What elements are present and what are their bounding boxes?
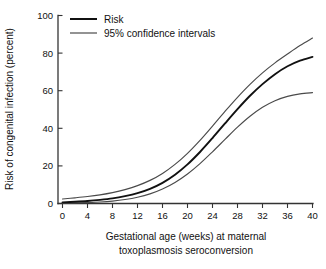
chart-background <box>0 0 326 269</box>
x-tick-label-20: 20 <box>182 210 193 221</box>
x-tick-label-0: 0 <box>60 210 65 221</box>
x-tick-label-4: 4 <box>85 210 90 221</box>
x-tick-label-12: 12 <box>132 210 143 221</box>
y-tick-label-80: 80 <box>42 48 53 59</box>
x-tick-label-24: 24 <box>207 210 218 221</box>
legend-label-risk: Risk <box>104 14 124 25</box>
y-tick-label-100: 100 <box>37 10 53 21</box>
x-tick-label-40: 40 <box>307 210 318 221</box>
y-tick-label-0: 0 <box>48 198 53 209</box>
chart-figure: Risk of congenital infection (percent) 1… <box>0 0 326 269</box>
x-axis-title-line-1: Gestational age (weeks) at maternal <box>106 231 267 242</box>
y-tick-label-60: 60 <box>42 85 53 96</box>
x-tick-label-16: 16 <box>157 210 168 221</box>
x-tick-label-28: 28 <box>232 210 243 221</box>
x-tick-label-32: 32 <box>257 210 268 221</box>
y-tick-label-40: 40 <box>42 123 53 134</box>
x-axis-title-line-2: toxoplasmosis seroconversion <box>119 245 253 256</box>
y-axis-title: Risk of congenital infection (percent) <box>4 28 15 190</box>
y-tick-label-20: 20 <box>42 160 53 171</box>
legend-label-confidence-intervals: 95% confidence intervals <box>104 28 215 39</box>
x-tick-label-36: 36 <box>282 210 293 221</box>
risk-of-congenital-infection-line-chart: Risk of congenital infection (percent) 1… <box>0 0 326 269</box>
x-tick-label-8: 8 <box>110 210 115 221</box>
